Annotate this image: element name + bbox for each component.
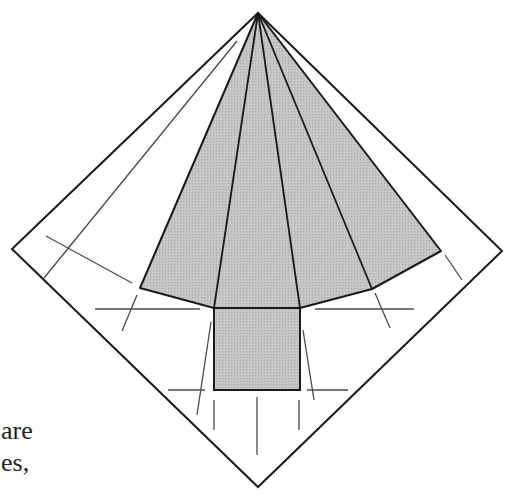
caption-fragment-2: es,: [1, 448, 29, 478]
caption-fragment-1: are: [1, 416, 33, 446]
shaded-stem: [214, 308, 300, 390]
origami-diagram: [0, 0, 508, 504]
